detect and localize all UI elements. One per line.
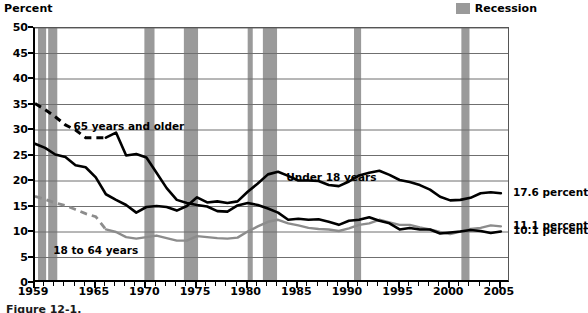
y-axis-tick-mark [28, 77, 33, 79]
plot-inner [35, 28, 508, 280]
legend-label-recession: Recession [475, 2, 537, 15]
x-axis-tick-mark [266, 282, 267, 286]
y-axis-tick-mark [28, 205, 33, 207]
legend: Recession [456, 2, 537, 15]
series-line [106, 133, 501, 234]
x-axis-tick-mark [377, 282, 378, 286]
y-axis-tick-mark [28, 52, 33, 54]
x-axis-tick-label: 1995 [382, 285, 413, 298]
series-annotation: Under 18 years [286, 171, 376, 183]
y-axis-tick-label: 45 [0, 46, 28, 59]
recession-band [184, 28, 198, 280]
y-axis-tick-label: 25 [0, 148, 28, 161]
x-axis-tick-mark [215, 282, 216, 286]
y-axis-tick-mark [28, 103, 33, 105]
y-axis-tick-label: 15 [0, 199, 28, 212]
y-axis-tick-mark [28, 26, 33, 28]
series-annotation: 18 to 64 years [53, 244, 138, 256]
recession-band [263, 28, 277, 280]
x-axis-tick-label: 1980 [230, 285, 261, 298]
x-axis-tick-mark [317, 282, 318, 286]
x-axis-tick-label: 1959 [18, 285, 49, 298]
y-axis-tick-mark [28, 128, 33, 130]
x-axis-tick-mark [468, 282, 469, 286]
y-axis-tick-mark [28, 154, 33, 156]
recession-swatch-icon [456, 3, 470, 14]
x-axis-tick-label: 1970 [129, 285, 160, 298]
x-axis-tick-mark [276, 282, 277, 286]
y-axis-tick-mark [28, 179, 33, 181]
y-axis-tick-label: 50 [0, 21, 28, 34]
recession-band [461, 28, 469, 280]
y-axis-tick-label: 10 [0, 225, 28, 238]
x-axis-tick-mark [367, 282, 368, 286]
x-axis-tick-mark [124, 282, 125, 286]
x-axis-tick-mark [175, 282, 176, 286]
series-end-label: 17.6 percent [513, 186, 588, 198]
y-axis-tick-mark [28, 230, 33, 232]
x-axis-tick-label: 1975 [180, 285, 211, 298]
series-end-label: 11.1 percent [513, 219, 588, 231]
x-axis-tick-mark [428, 282, 429, 286]
x-axis-tick-mark [225, 282, 226, 286]
x-axis-tick-mark [479, 282, 480, 286]
recession-band [248, 28, 253, 280]
x-axis-tick-label: 2005 [484, 285, 515, 298]
y-axis-tick-label: 30 [0, 123, 28, 136]
x-axis-tick-mark [74, 282, 75, 286]
x-axis-tick-mark [327, 282, 328, 286]
x-axis-tick-label: 1985 [281, 285, 312, 298]
recession-band [354, 28, 361, 280]
y-axis-tick-label: 5 [0, 250, 28, 263]
y-axis-tick-label: 40 [0, 72, 28, 85]
recession-band [144, 28, 154, 280]
y-axis-tick-label: 20 [0, 174, 28, 187]
series-line [106, 220, 501, 241]
figure-caption: Figure 12-1. [6, 303, 81, 313]
series-annotation: 65 years and older [74, 120, 185, 132]
x-axis-tick-mark [165, 282, 166, 286]
x-axis-tick-mark [63, 282, 64, 286]
recession-band [38, 28, 46, 280]
y-axis-tick-mark [28, 256, 33, 258]
x-axis-tick-label: 1965 [78, 285, 109, 298]
y-axis-title: Percent [4, 2, 53, 15]
y-axis-tick-label: 35 [0, 97, 28, 110]
x-axis-tick-mark [418, 282, 419, 286]
x-axis-tick-label: 1990 [332, 285, 363, 298]
x-axis-tick-mark [114, 282, 115, 286]
x-axis-tick-label: 2000 [433, 285, 464, 298]
chart-canvas [35, 28, 508, 280]
x-axis-tick-mark [53, 282, 54, 286]
